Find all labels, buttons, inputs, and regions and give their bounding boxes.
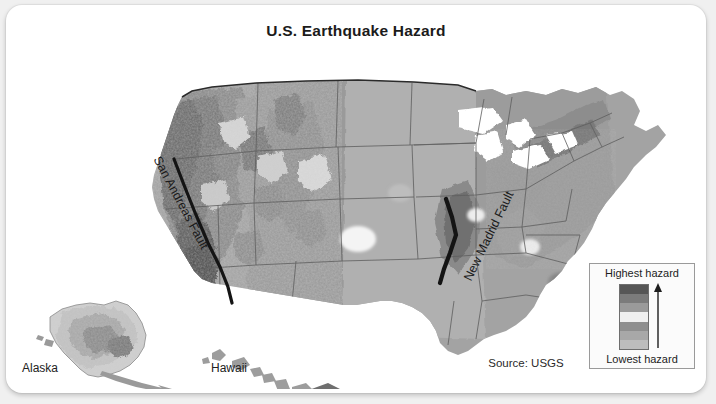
legend-title-lowest: Lowest hazard	[590, 353, 694, 365]
map-card: U.S. Earthquake Hazard	[6, 5, 706, 393]
legend-band-4	[620, 312, 648, 321]
charleston-hazard-spot	[554, 276, 570, 288]
legend-band-3	[620, 303, 648, 312]
legend: Highest hazard Lowest hazard	[589, 263, 695, 369]
hawaii-inset-label: Hawaii	[211, 361, 247, 375]
legend-band-1	[620, 285, 648, 294]
legend-arrow-up-icon	[652, 282, 664, 350]
legend-band-2	[620, 294, 648, 303]
legend-title-highest: Highest hazard	[590, 267, 694, 279]
legend-gradient-bar	[619, 284, 649, 350]
legend-band-7	[620, 340, 648, 349]
page-title: U.S. Earthquake Hazard	[6, 22, 706, 40]
alaska-inset-label: Alaska	[22, 361, 58, 375]
low-hazard-patch-tx	[340, 226, 376, 252]
source-credit: Source: USGS	[461, 357, 591, 369]
legend-band-6	[620, 331, 648, 340]
legend-band-5	[620, 322, 648, 331]
screenshot-root: U.S. Earthquake Hazard	[0, 0, 716, 404]
